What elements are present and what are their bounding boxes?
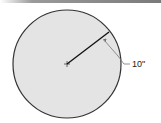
- radius-label: 10": [132, 59, 145, 69]
- circle-diagram: 10": [0, 0, 161, 123]
